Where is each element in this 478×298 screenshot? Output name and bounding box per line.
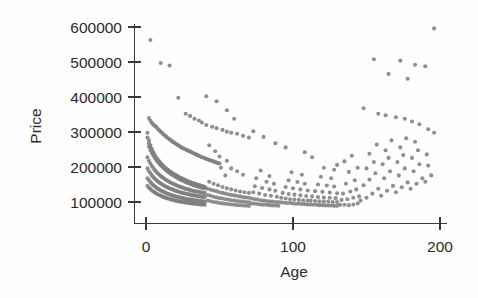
data-point <box>342 159 346 163</box>
data-point <box>273 141 277 145</box>
data-point <box>284 185 288 189</box>
data-point <box>328 191 332 195</box>
data-point <box>167 63 171 67</box>
data-point <box>429 173 433 177</box>
data-point <box>403 117 407 121</box>
data-point <box>247 191 251 195</box>
data-point <box>357 194 361 198</box>
data-point <box>370 192 374 196</box>
data-point <box>367 178 371 182</box>
data-point <box>313 189 317 193</box>
data-point <box>298 193 302 197</box>
data-point <box>379 194 383 198</box>
data-point <box>304 194 308 198</box>
data-point <box>381 162 385 166</box>
data-point <box>353 178 357 182</box>
data-point <box>375 143 379 147</box>
data-point <box>310 155 314 159</box>
data-point <box>212 182 216 186</box>
data-point <box>210 125 214 129</box>
x-tick-label: 0 <box>142 238 151 255</box>
data-point <box>423 180 427 184</box>
data-point <box>373 171 377 175</box>
data-point <box>259 168 263 172</box>
data-point <box>297 198 301 202</box>
data-point <box>367 152 371 156</box>
data-point <box>359 199 363 203</box>
data-points-layer <box>145 26 436 208</box>
data-point <box>276 204 280 208</box>
y-axis-tick-labels: 100000200000300000400000500000600000 <box>70 19 122 211</box>
data-point <box>354 187 358 191</box>
data-point <box>145 155 149 159</box>
data-point <box>406 180 410 184</box>
data-point <box>316 182 320 186</box>
data-point <box>225 130 229 134</box>
data-point <box>387 72 391 76</box>
scatter-plot-svg: 100000200000300000400000500000600000 010… <box>0 0 478 298</box>
data-point <box>225 159 229 163</box>
data-point <box>432 131 436 135</box>
data-point <box>376 112 380 116</box>
data-point <box>200 121 204 125</box>
data-point <box>316 195 320 199</box>
data-point <box>291 186 295 190</box>
data-point <box>331 200 335 204</box>
data-point <box>279 196 283 200</box>
data-point <box>410 119 414 123</box>
data-point <box>388 169 392 173</box>
data-point <box>260 186 264 190</box>
data-point <box>235 169 239 173</box>
data-point <box>338 203 342 207</box>
data-point <box>347 170 351 174</box>
data-point <box>300 173 304 177</box>
y-tick-label: 100000 <box>70 194 122 211</box>
data-point <box>423 64 427 68</box>
data-point <box>219 166 223 170</box>
y-axis <box>128 24 141 224</box>
data-point <box>267 174 271 178</box>
data-point <box>235 132 239 136</box>
data-point <box>351 202 355 206</box>
data-point <box>216 183 220 187</box>
x-axis-title: Age <box>280 263 308 280</box>
data-point <box>397 173 401 177</box>
data-point <box>229 187 233 191</box>
data-point <box>223 173 227 177</box>
data-point <box>420 176 424 180</box>
data-point <box>322 195 326 199</box>
data-point <box>391 184 395 188</box>
data-point <box>225 186 229 190</box>
data-point <box>253 184 257 188</box>
data-point <box>335 163 339 167</box>
data-point <box>207 180 211 184</box>
data-point <box>342 203 346 207</box>
y-tick-label: 300000 <box>70 124 122 141</box>
data-point <box>356 166 360 170</box>
data-point <box>213 149 217 153</box>
data-point <box>262 135 266 139</box>
data-point <box>251 129 255 133</box>
data-point <box>192 117 196 121</box>
x-axis <box>135 217 448 230</box>
data-point <box>372 160 376 164</box>
data-point <box>341 192 345 196</box>
data-point <box>332 185 336 189</box>
data-point <box>257 192 261 196</box>
data-point <box>385 189 389 193</box>
data-point <box>184 112 188 116</box>
data-point <box>310 194 314 198</box>
data-point <box>394 190 398 194</box>
data-point <box>306 188 310 192</box>
data-point <box>203 203 207 207</box>
data-point <box>426 164 430 168</box>
data-point <box>242 190 246 194</box>
data-point <box>251 190 255 194</box>
x-tick-label: 200 <box>427 238 453 255</box>
x-tick-label: 100 <box>280 238 306 255</box>
data-point <box>217 161 221 165</box>
data-point <box>292 198 296 202</box>
y-tick-label: 500000 <box>70 54 122 71</box>
data-point <box>400 185 404 189</box>
data-point <box>411 169 415 173</box>
